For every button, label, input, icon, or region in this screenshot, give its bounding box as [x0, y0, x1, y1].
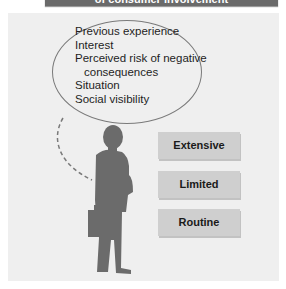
level-limited: Limited — [158, 171, 240, 198]
businessman-silhouette-icon — [88, 125, 133, 274]
level-label: Extensive — [173, 139, 224, 151]
level-extensive: Extensive — [158, 132, 240, 159]
diagram-graphics — [0, 0, 286, 289]
level-routine: Routine — [158, 209, 240, 236]
level-label: Routine — [179, 216, 220, 228]
dashed-connector — [57, 118, 92, 180]
level-label: Limited — [179, 178, 218, 190]
